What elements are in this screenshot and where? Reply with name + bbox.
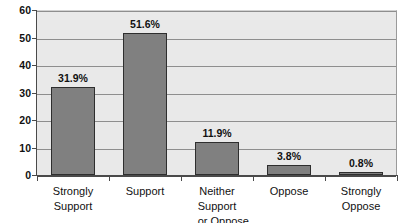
bar[interactable] <box>195 142 239 175</box>
x-category-label: StronglySupport <box>37 184 109 214</box>
x-category-label-line2: or Oppose <box>181 214 253 223</box>
bar-slot: 11.9% <box>181 10 253 175</box>
x-axis-line <box>37 175 398 176</box>
bar-value-label: 31.9% <box>58 73 88 84</box>
bar[interactable] <box>267 165 311 175</box>
gridline <box>37 176 396 177</box>
y-tick-label: 50 <box>3 33 31 43</box>
x-category-label-line1: Strongly <box>325 184 397 199</box>
y-tick-label: 0 <box>3 170 31 180</box>
x-tick-mark <box>109 176 110 181</box>
y-tick-label: 60 <box>3 5 31 15</box>
bar-chart: 0102030405060 31.9%51.6%11.9%3.8%0.8% St… <box>0 0 416 223</box>
x-tick-mark <box>37 176 38 181</box>
bars-layer: 31.9%51.6%11.9%3.8%0.8% <box>37 10 397 175</box>
x-category-label-line1: Strongly <box>37 184 109 199</box>
x-category-label-line1: Oppose <box>253 184 325 199</box>
x-category-label-line1: Support <box>109 184 181 199</box>
bar[interactable] <box>339 172 383 175</box>
bar-value-label: 51.6% <box>130 19 160 30</box>
x-tick-mark <box>181 176 182 181</box>
bar-value-label: 0.8% <box>349 158 373 169</box>
bar-slot: 3.8% <box>253 10 325 175</box>
bar-slot: 51.6% <box>109 10 181 175</box>
x-category-label-line2: Support <box>37 199 109 214</box>
x-category-label: Neither Supportor Oppose <box>181 184 253 223</box>
x-axis-labels: StronglySupportSupportNeither Supportor … <box>37 184 397 223</box>
y-axis: 0102030405060 <box>0 0 31 223</box>
x-category-label-line1: Neither Support <box>181 184 253 214</box>
y-tick-label: 20 <box>3 115 31 125</box>
x-tick-mark <box>325 176 326 181</box>
bar-value-label: 11.9% <box>202 128 231 139</box>
y-tick-label: 40 <box>3 60 31 70</box>
x-tick-mark <box>253 176 254 181</box>
y-tick-label: 10 <box>3 143 31 153</box>
bar[interactable] <box>123 33 167 175</box>
x-category-label-line2: Oppose <box>325 199 397 214</box>
x-category-label: StronglyOppose <box>325 184 397 214</box>
x-tick-mark <box>397 176 398 181</box>
bar-value-label: 3.8% <box>277 151 301 162</box>
bar[interactable] <box>51 87 95 175</box>
y-tick-label: 30 <box>3 88 31 98</box>
bar-slot: 31.9% <box>37 10 109 175</box>
bar-slot: 0.8% <box>325 10 397 175</box>
x-category-label: Support <box>109 184 181 199</box>
x-category-label: Oppose <box>253 184 325 199</box>
